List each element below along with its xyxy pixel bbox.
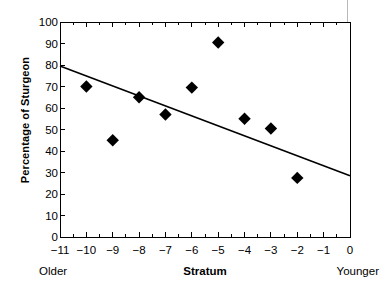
- x-axis-tick-label: −6: [185, 244, 198, 256]
- x-axis-tick-label: 0: [347, 244, 353, 256]
- x-axis-tick-label: −5: [212, 244, 225, 256]
- x-axis-tick-label: −2: [291, 244, 304, 256]
- x-axis-tick-label: −4: [238, 244, 251, 256]
- x-axis-tick-label: −1: [317, 244, 330, 256]
- x-axis-left-annotation: Older: [39, 265, 67, 277]
- x-axis-tick-label: −10: [77, 244, 97, 256]
- x-axis-title: Stratum: [183, 265, 226, 277]
- sturgeon-percentage-scatter-chart: Percentage of Sturgeon 01020304050607080…: [0, 0, 381, 295]
- x-axis-tick-label: −11: [51, 244, 70, 256]
- x-axis-tick-label: −3: [264, 244, 277, 256]
- x-axis-right-annotation: Younger: [337, 265, 379, 277]
- x-axis-tick-label: −9: [106, 244, 119, 256]
- x-axis-tick-label-group: −11−10−9−8−7−6−5−4−3−2−10: [0, 0, 381, 295]
- x-axis-tick-label: −7: [159, 244, 172, 256]
- x-axis-tick-label: −8: [133, 244, 146, 256]
